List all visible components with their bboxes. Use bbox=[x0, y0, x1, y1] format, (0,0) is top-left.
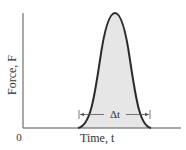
force-time-diagram: Δt 0 Time, t Force, F bbox=[0, 0, 186, 150]
origin-label: 0 bbox=[16, 131, 22, 143]
x-axis-label: Time, t bbox=[80, 131, 115, 145]
arrow-left-icon bbox=[80, 113, 84, 116]
interval-label: Δt bbox=[110, 108, 120, 120]
y-axis-label: Force, F bbox=[5, 55, 19, 95]
arrow-right-icon bbox=[145, 113, 149, 116]
